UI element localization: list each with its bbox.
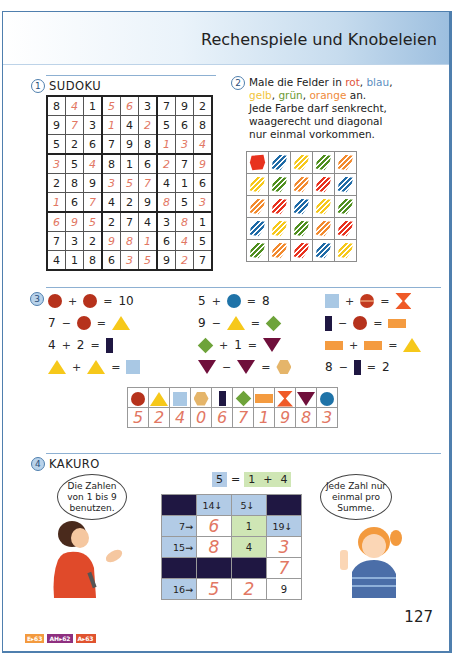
sudoku-cell[interactable]: 3 [84,116,103,135]
sudoku-cell[interactable]: 6 [84,135,103,155]
sudoku-cell[interactable]: 6 [102,251,121,271]
sudoku-cell[interactable]: 7 [66,116,84,135]
sudoku-cell[interactable]: 2 [121,193,139,213]
color-cell-gelb[interactable] [335,240,357,262]
sudoku-cell[interactable]: 8 [66,174,84,193]
key-value-cell[interactable]: 1 [254,408,275,428]
sudoku-cell[interactable]: 6 [176,116,194,135]
sudoku-cell[interactable]: 4 [84,154,103,174]
color-cell-orange[interactable] [291,174,313,196]
sudoku-cell[interactable]: 7 [47,232,66,251]
sudoku-cell[interactable]: 4 [194,135,213,155]
sudoku-cell[interactable]: 9 [194,154,213,174]
key-value-cell[interactable]: 2 [149,408,170,428]
sudoku-cell[interactable]: 9 [66,212,84,232]
sudoku-cell[interactable]: 8 [157,193,176,213]
color-cell-gruen[interactable] [247,240,269,262]
color-cell-rot[interactable] [335,218,357,240]
color-cell-gruen[interactable] [335,196,357,218]
sudoku-cell[interactable]: 1 [176,174,194,193]
sudoku-cell[interactable]: 5 [102,96,121,116]
color-cell-rot[interactable] [313,174,335,196]
sudoku-cell[interactable]: 1 [66,251,84,271]
sudoku-cell[interactable]: 6 [47,212,66,232]
key-value-cell[interactable]: 8 [296,408,317,428]
kakuro-cell-green[interactable]: 1 [232,516,267,537]
sudoku-cell[interactable]: 8 [194,116,213,135]
sudoku-cell[interactable]: 3 [139,96,158,116]
color-cell-gelb[interactable] [291,152,313,174]
sudoku-cell[interactable]: 3 [66,232,84,251]
sudoku-cell[interactable]: 9 [139,193,158,213]
sudoku-cell[interactable]: 5 [194,232,213,251]
sudoku-cell[interactable]: 1 [121,154,139,174]
sudoku-cell[interactable]: 8 [139,135,158,155]
sudoku-cell[interactable]: 2 [47,174,66,193]
sudoku-cell[interactable]: 2 [139,116,158,135]
sudoku-cell[interactable]: 7 [139,174,158,193]
key-value-cell[interactable]: 6 [212,408,233,428]
sudoku-cell[interactable]: 6 [194,174,213,193]
kakuro-cell-red[interactable]: 5 [197,579,232,600]
sudoku-cell[interactable]: 4 [121,116,139,135]
color-cell-blau[interactable] [313,240,335,262]
color-cell-blau[interactable] [335,174,357,196]
kakuro-cell-red[interactable]: 6 [197,516,232,537]
color-cell-gruen[interactable] [269,174,291,196]
sudoku-cell[interactable]: 6 [66,193,84,213]
sudoku-cell[interactable]: 1 [157,135,176,155]
sudoku-cell[interactable]: 6 [139,154,158,174]
sudoku-cell[interactable]: 2 [102,212,121,232]
color-cell-blau[interactable] [269,152,291,174]
sudoku-cell[interactable]: 3 [102,174,121,193]
sudoku-cell[interactable]: 1 [47,193,66,213]
sudoku-cell[interactable]: 8 [121,232,139,251]
color-cell-orange[interactable] [247,196,269,218]
color-cell-rot[interactable] [291,240,313,262]
sudoku-cell[interactable]: 4 [47,251,66,271]
sudoku-cell[interactable]: 5 [121,174,139,193]
sudoku-cell[interactable]: 3 [176,135,194,155]
color-cell-orange[interactable] [335,152,357,174]
sudoku-cell[interactable]: 9 [84,174,103,193]
kakuro-cell-red[interactable]: 8 [197,537,232,558]
key-value-cell[interactable]: 0 [191,408,212,428]
key-value-cell[interactable]: 7 [233,408,254,428]
sudoku-cell[interactable]: 1 [84,96,103,116]
color-cell-gruen[interactable] [313,152,335,174]
sudoku-cell[interactable]: 5 [84,212,103,232]
sudoku-cell[interactable]: 5 [176,193,194,213]
sudoku-cell[interactable]: 1 [139,232,158,251]
color-cell-orange[interactable] [269,240,291,262]
sudoku-cell[interactable]: 4 [176,232,194,251]
sudoku-cell[interactable]: 8 [176,212,194,232]
sudoku-cell[interactable]: 4 [66,96,84,116]
sudoku-cell[interactable]: 9 [121,135,139,155]
key-value-cell[interactable]: 5 [128,408,149,428]
sudoku-cell[interactable]: 9 [157,251,176,271]
color-cell-blau[interactable] [291,196,313,218]
sudoku-cell[interactable]: 7 [157,96,176,116]
sudoku-cell[interactable]: 2 [84,232,103,251]
sudoku-cell[interactable]: 5 [157,116,176,135]
sudoku-cell[interactable]: 9 [102,232,121,251]
sudoku-cell[interactable]: 3 [47,154,66,174]
color-cell-gelb[interactable] [269,218,291,240]
sudoku-cell[interactable]: 7 [84,193,103,213]
sudoku-cell[interactable]: 8 [47,96,66,116]
kakuro-cell-red[interactable]: 2 [232,579,267,600]
sudoku-cell[interactable]: 2 [194,96,213,116]
sudoku-cell[interactable]: 2 [66,135,84,155]
sudoku-cell[interactable]: 7 [194,251,213,271]
sudoku-cell[interactable]: 3 [157,212,176,232]
key-value-cell[interactable]: 9 [275,408,296,428]
sudoku-cell[interactable]: 9 [47,116,66,135]
kakuro-cell-plain[interactable]: 9 [267,579,302,600]
sudoku-cell[interactable]: 4 [157,174,176,193]
sudoku-cell[interactable]: 6 [157,232,176,251]
kakuro-cell-red[interactable]: 3 [267,537,302,558]
sudoku-cell[interactable]: 3 [194,193,213,213]
sudoku-cell[interactable]: 2 [157,154,176,174]
sudoku-cell[interactable]: 5 [139,251,158,271]
sudoku-cell[interactable]: 7 [102,135,121,155]
